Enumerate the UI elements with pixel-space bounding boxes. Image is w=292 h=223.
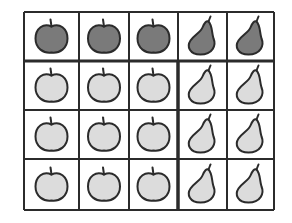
pear-icon [189, 115, 215, 153]
apple-icon [36, 69, 68, 102]
fruit-grid [0, 0, 292, 223]
apple-icon [138, 118, 170, 151]
pear-icon [237, 165, 263, 203]
apple-icon [36, 118, 68, 151]
apple-icon [36, 168, 68, 201]
pear-icon [237, 66, 263, 104]
pear-icon [189, 17, 215, 55]
apple-icon [138, 69, 170, 102]
apple-icon [138, 168, 170, 201]
apple-icon [138, 20, 170, 53]
apple-icon [88, 118, 120, 151]
pear-icon [237, 115, 263, 153]
apple-icon [88, 69, 120, 102]
apple-icon [88, 20, 120, 53]
pear-icon [189, 66, 215, 104]
pear-icon [189, 165, 215, 203]
apple-icon [88, 168, 120, 201]
apple-icon [36, 20, 68, 53]
pear-icon [237, 17, 263, 55]
